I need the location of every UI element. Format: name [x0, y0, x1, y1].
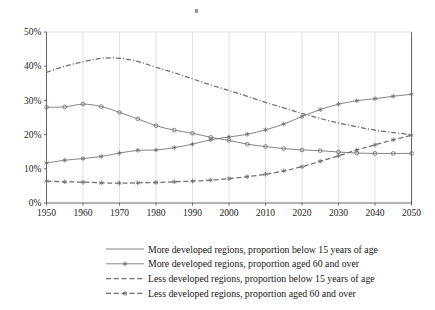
data-point-marker — [318, 107, 322, 112]
x-tick-label-2010: 2010 — [256, 208, 275, 218]
x-tick-label-1970: 1970 — [110, 208, 129, 218]
y-tick-label-40%: 40% — [24, 61, 42, 71]
plot-area-container: 0%10%20%30%40%50% 1950196019701980199020… — [0, 0, 435, 310]
y-axis-tick-labels: 0%10%20%30%40%50% — [24, 27, 46, 208]
x-tick-label-2020: 2020 — [293, 208, 312, 218]
y-tick-label-20%: 20% — [24, 130, 42, 140]
population-age-structure-line-chart: 0%10%20%30%40%50% 1950196019701980199020… — [0, 0, 435, 310]
y-tick-label-10%: 10% — [24, 164, 42, 174]
x-tick-label-2050: 2050 — [402, 208, 421, 218]
legend-item-3[interactable]: Less developed regions, proportion aged … — [106, 288, 357, 299]
x-tick-label-1960: 1960 — [74, 208, 93, 218]
x-tick-label-2030: 2030 — [329, 208, 348, 218]
chart-figure: 0%10%20%30%40%50% 1950196019701980199020… — [0, 0, 435, 310]
data-point-marker — [282, 122, 286, 127]
legend-item-1[interactable]: More developed regions, proportion aged … — [106, 258, 360, 269]
x-tick-label-1950: 1950 — [37, 208, 56, 218]
legend-label-0: More developed regions, proportion below… — [148, 244, 379, 255]
x-tick-label-2000: 2000 — [220, 208, 239, 218]
y-tick-label-50%: 50% — [24, 27, 42, 37]
y-tick-label-30%: 30% — [24, 96, 42, 106]
x-tick-label-1980: 1980 — [147, 208, 166, 218]
legend-item-2[interactable]: Less developed regions, proportion below… — [106, 273, 375, 284]
x-tick-label-1990: 1990 — [183, 208, 202, 218]
legend-label-1: More developed regions, proportion aged … — [148, 258, 360, 269]
x-tick-label-2040: 2040 — [366, 208, 385, 218]
data-point-marker — [300, 114, 304, 119]
legend-label-2: Less developed regions, proportion below… — [148, 273, 375, 284]
y-tick-label-0%: 0% — [29, 198, 42, 208]
legend-label-3: Less developed regions, proportion aged … — [148, 288, 357, 299]
chart-legend: More developed regions, proportion below… — [106, 244, 379, 299]
x-axis-tick-labels: 1950196019701980199020002010202020302040… — [37, 203, 421, 218]
legend-item-0[interactable]: More developed regions, proportion below… — [106, 244, 379, 255]
